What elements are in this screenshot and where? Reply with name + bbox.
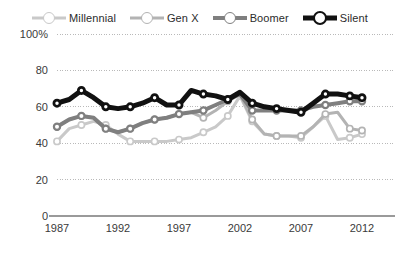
data-point [127,126,133,132]
data-point [359,95,365,101]
y-tick-label: 40 [36,137,48,149]
data-point [152,95,158,101]
plot-area: 020406080100% 198719921997200220072012 [0,0,400,253]
data-point [359,127,365,133]
x-tick-label: 2007 [289,222,313,234]
data-point [347,135,353,141]
data-point [103,104,109,110]
y-tick-label: 80 [36,64,48,76]
data-point [152,116,158,122]
data-point [274,106,280,112]
data-point [200,91,206,97]
data-point [127,104,133,110]
data-point [322,102,328,108]
data-point [322,91,328,97]
x-tick-label: 2002 [228,222,252,234]
y-tick-label: 100% [20,28,48,40]
x-axis-ticks: 198719921997200220072012 [45,222,374,234]
data-point [200,129,206,135]
data-point [274,133,280,139]
data-point [54,138,60,144]
data-point [298,109,304,115]
x-tick-label: 1997 [167,222,191,234]
data-point [249,100,255,106]
data-point [200,115,206,121]
data-point [322,111,328,117]
y-tick-label: 0 [42,210,48,222]
data-point [176,111,182,117]
data-point [298,133,304,139]
x-tick-label: 1987 [45,222,69,234]
data-point [127,138,133,144]
data-point [176,102,182,108]
data-point [347,126,353,132]
data-point [54,100,60,106]
line-chart-svg: 020406080100% 198719921997200220072012 [0,0,400,253]
data-point [249,116,255,122]
chart-container: Millennial Gen X Boomer Silent [0,0,400,253]
y-tick-label: 60 [36,101,48,113]
data-point [78,87,84,93]
data-point [347,93,353,99]
data-point [78,113,84,119]
data-point [249,107,255,113]
y-tick-label: 20 [36,174,48,186]
data-point [78,122,84,128]
data-point [103,126,109,132]
data-point [225,113,231,119]
data-point [200,107,206,113]
y-axis-ticks: 020406080100% [20,28,48,222]
data-point [54,124,60,130]
data-series [54,87,365,144]
data-point [176,136,182,142]
data-point [152,138,158,144]
series-silent [54,87,365,115]
data-point [225,96,231,102]
x-tick-label: 1992 [106,222,130,234]
x-tick-label: 2012 [350,222,374,234]
